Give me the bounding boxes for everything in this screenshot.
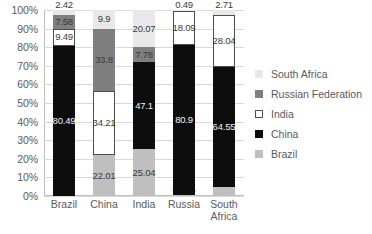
x-axis-labels: BrazilChinaIndiaRussiaSouth Africa [44,198,244,232]
bar-segment-label: 47.1 [135,101,153,111]
bar-segment[interactable]: 22.01 [93,155,115,196]
legend-item[interactable]: China [255,124,370,144]
bar-segment-label: 25.04 [133,168,156,178]
y-axis-tick: 80% [17,42,38,52]
bar-segment-label: 64.55 [213,122,236,132]
bar-segment[interactable]: 7.58 [53,15,75,29]
bar-segment[interactable]: 80.9 [173,45,195,195]
legend-label: China [271,129,298,140]
bar-segment-label: 7.78 [135,50,153,60]
x-axis-label: Brazil [44,198,84,210]
bar-segment[interactable]: 0.49 [173,10,195,11]
bar-segment[interactable]: 2.71 [213,10,235,15]
bar-segment[interactable]: 25.04 [133,149,155,196]
y-axis-tick: 0% [23,191,38,201]
bar-segment[interactable]: 80.49 [53,46,75,196]
legend-swatch-icon [255,70,263,78]
bar-segment[interactable]: 0.495 [173,195,195,196]
legend-swatch-icon [255,150,263,158]
bar-segment[interactable]: 28.04 [213,15,235,67]
bar-segment[interactable]: 2.42 [53,10,75,15]
legend-item[interactable]: Russian Federation [255,84,370,104]
bar-segment-label: 2.71 [215,0,233,10]
bar-segment-label: 28.04 [213,36,236,46]
bar-segment-label: 80.9 [175,115,193,125]
legend-label: India [271,109,294,120]
bar-segment-label: 2.42 [55,0,73,10]
y-axis-tick: 30% [17,135,38,145]
bar-segment-label: 22.01 [93,171,116,181]
x-axis-label: India [124,198,164,210]
stacked-bar[interactable]: 0.49580.918.090.49 [173,10,195,196]
bar-segment[interactable]: 33.8 [93,29,115,92]
y-axis-tick: 70% [17,61,38,71]
bar-group: 80.499.497.582.42 [44,10,84,196]
legend-item[interactable]: South Africa [255,64,370,84]
x-axis-label: Russia [164,198,204,210]
y-axis: 0%10%20%30%40%50%60%70%80%90%100% [0,10,42,196]
bar-segment[interactable]: 4.7 [213,187,235,196]
stacked-bar[interactable]: 80.499.497.582.42 [53,10,75,196]
bar-segment-label: 9.49 [55,32,73,42]
bar-segment-label: 7.58 [55,17,73,27]
bar-segment[interactable]: 34.21 [93,91,115,155]
bar-segment[interactable]: 20.07 [133,10,155,47]
gridline [44,196,244,197]
y-axis-tick: 60% [17,79,38,89]
legend-label: Russian Federation [271,89,362,100]
stacked-bar[interactable]: 22.0134.2133.89.9 [93,10,115,196]
bar-segment-label: 33.8 [95,55,113,65]
bar-segment[interactable]: 9.49 [53,29,75,47]
y-axis-tick: 40% [17,117,38,127]
legend-swatch-icon [255,110,263,118]
legend-swatch-icon [255,130,263,138]
bar-group: 25.0447.17.7820.07 [124,10,164,196]
bar-segment[interactable]: 47.1 [133,62,155,150]
x-axis-label: China [84,198,124,210]
legend-item[interactable]: Brazil [255,144,370,164]
bar-segment[interactable]: 18.09 [173,11,195,45]
legend-label: South Africa [271,69,328,80]
bar-segment[interactable]: 7.78 [133,47,155,61]
x-axis-label: South Africa [204,198,244,222]
bar-segment-label: 20.07 [133,24,156,34]
legend-swatch-icon [255,90,263,98]
y-axis-tick: 50% [17,98,38,108]
y-axis-tick: 100% [12,5,38,15]
stacked-bar-chart: 0%10%20%30%40%50%60%70%80%90%100% 80.499… [0,0,372,234]
legend-label: Brazil [271,149,297,160]
stacked-bar[interactable]: 25.0447.17.7820.07 [133,10,155,196]
plot-area: 80.499.497.582.4222.0134.2133.89.925.044… [44,10,244,196]
y-axis-tick: 10% [17,172,38,182]
bar-segment-label: 9.9 [98,14,111,24]
bar-segment-label: 80.49 [53,116,76,126]
bar-segment-label: 34.21 [93,118,116,128]
y-axis-tick: 90% [17,24,38,34]
legend-item[interactable]: India [255,104,370,124]
bar-segment-label: 18.09 [173,23,196,33]
y-axis-tick: 20% [17,154,38,164]
chart-legend: South AfricaRussian FederationIndiaChina… [255,64,370,164]
bar-group: 0.49580.918.090.49 [164,10,204,196]
bar-group: 22.0134.2133.89.9 [84,10,124,196]
stacked-bar[interactable]: 4.764.5528.042.71 [213,10,235,196]
bar-segment[interactable]: 64.55 [213,67,235,187]
bar-group: 4.764.5528.042.71 [204,10,244,196]
bar-segment[interactable]: 9.9 [93,10,115,28]
bar-segment-label: 0.49 [175,0,193,10]
